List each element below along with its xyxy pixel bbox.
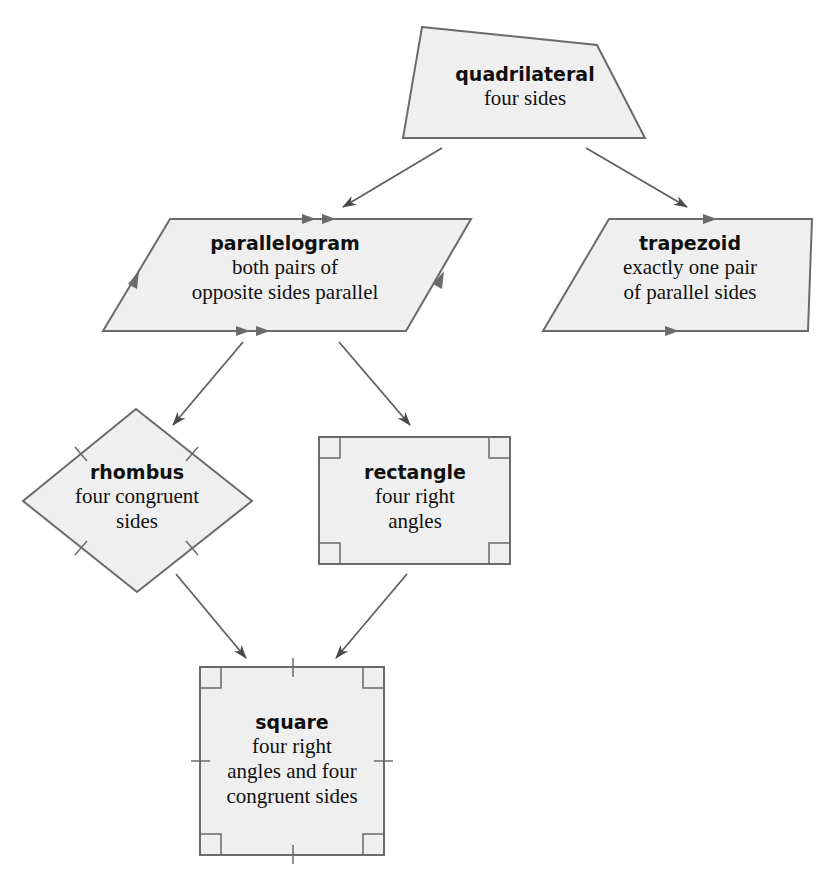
arrow-rectangle-to-square xyxy=(336,574,407,658)
node-description: four right xyxy=(340,484,490,509)
quadrilateral-hierarchy-diagram: quadrilateral four sides parallelogram b… xyxy=(0,0,840,891)
node-description: four right xyxy=(205,734,379,759)
node-title: parallelogram xyxy=(160,231,410,255)
node-description: four congruent xyxy=(37,484,237,509)
node-description: congruent sides xyxy=(205,784,379,809)
arrow-quadrilateral-to-trapezoid xyxy=(586,148,687,207)
arrow-quadrilateral-to-parallelogram xyxy=(343,148,442,207)
node-description: angles xyxy=(340,509,490,534)
node-description: both pairs of xyxy=(160,255,410,280)
node-description: four sides xyxy=(420,86,630,111)
node-description: angles and four xyxy=(205,759,379,784)
node-title: square xyxy=(205,710,379,734)
node-description: sides xyxy=(37,509,237,534)
rhombus-label: rhombus four congruent sides xyxy=(37,460,237,534)
rectangle-label: rectangle four right angles xyxy=(340,460,490,534)
node-description: of parallel sides xyxy=(580,280,800,305)
node-description: exactly one pair xyxy=(580,255,800,280)
node-title: rectangle xyxy=(340,460,490,484)
node-title: rhombus xyxy=(37,460,237,484)
trapezoid-label: trapezoid exactly one pair of parallel s… xyxy=(580,231,800,305)
diagram-graphics xyxy=(0,0,840,891)
parallelogram-label: parallelogram both pairs of opposite sid… xyxy=(160,231,410,305)
square-label: square four right angles and four congru… xyxy=(205,710,379,809)
node-title: trapezoid xyxy=(580,231,800,255)
quadrilateral-label: quadrilateral four sides xyxy=(420,62,630,111)
arrow-rhombus-to-square xyxy=(176,574,246,658)
node-description: opposite sides parallel xyxy=(160,280,410,305)
node-title: quadrilateral xyxy=(420,62,630,86)
arrow-parallelogram-to-rectangle xyxy=(339,342,410,425)
arrow-parallelogram-to-rhombus xyxy=(173,342,243,425)
